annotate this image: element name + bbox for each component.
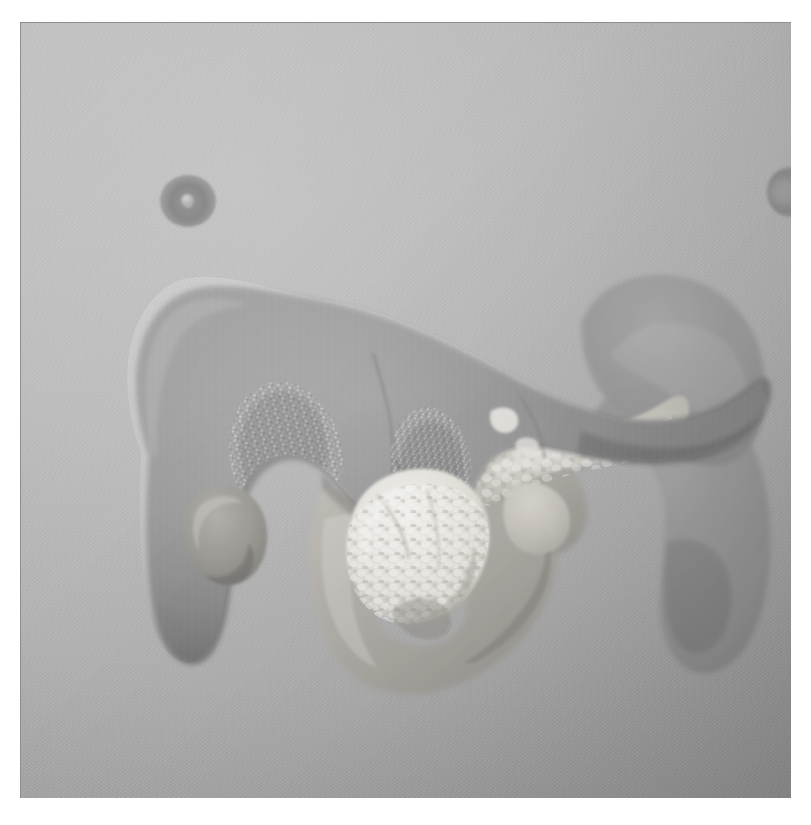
figure-vignette <box>21 23 791 798</box>
page-canvas <box>0 0 811 825</box>
anatomical-figure-plate <box>20 22 791 798</box>
